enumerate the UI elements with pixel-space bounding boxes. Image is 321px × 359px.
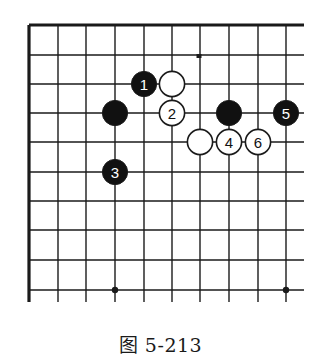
grid-lines — [29, 25, 304, 302]
move-number: 3 — [111, 164, 119, 181]
white-stone — [159, 71, 184, 96]
star-point — [112, 287, 118, 293]
stone-shape — [187, 129, 212, 154]
white-stone-2: 2 — [159, 100, 184, 125]
move-number: 1 — [140, 76, 148, 93]
board-marks — [197, 54, 202, 58]
go-board: 125463 — [0, 0, 321, 320]
stone-shape — [216, 100, 241, 125]
black-stone-5: 5 — [273, 100, 298, 125]
black-stone — [102, 100, 127, 125]
move-number: 2 — [168, 105, 176, 122]
figure-caption: 图 5-213 — [0, 330, 321, 357]
white-stone-6: 6 — [245, 129, 270, 154]
move-number: 5 — [282, 105, 290, 122]
stone-shape — [102, 100, 127, 125]
stone-shape — [159, 71, 184, 96]
black-stone-3: 3 — [102, 159, 127, 184]
move-number: 4 — [225, 134, 233, 151]
board-mark — [197, 54, 202, 58]
white-stone-4: 4 — [216, 129, 241, 154]
move-number: 6 — [254, 134, 262, 151]
white-stone — [187, 129, 212, 154]
star-point — [283, 287, 289, 293]
black-stone-1: 1 — [131, 71, 156, 96]
black-stone — [216, 100, 241, 125]
